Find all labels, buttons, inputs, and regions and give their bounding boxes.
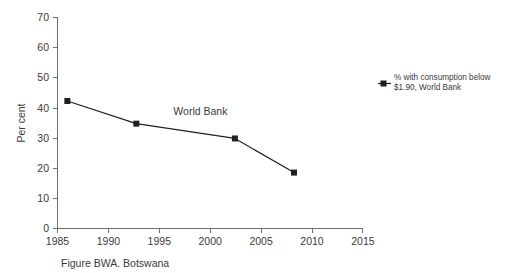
y-tick-label-10: 10 bbox=[37, 192, 49, 204]
series-data-point bbox=[232, 135, 238, 141]
y-axis-ticks bbox=[53, 18, 58, 229]
y-tick-label-50: 50 bbox=[37, 71, 49, 83]
y-tick-label-20: 20 bbox=[37, 162, 49, 174]
x-tick-label-2005: 2005 bbox=[249, 235, 273, 247]
y-tick-label-40: 40 bbox=[37, 102, 49, 114]
y-tick-label-60: 60 bbox=[37, 41, 49, 53]
x-tick-label-1985: 1985 bbox=[46, 235, 70, 247]
x-tick-label-2015: 2015 bbox=[351, 235, 375, 247]
x-axis-tick-labels: 1985 1990 1995 2000 2005 2010 2015 bbox=[46, 235, 375, 247]
legend-square-marker-icon bbox=[381, 81, 387, 87]
x-tick-label-1990: 1990 bbox=[97, 235, 121, 247]
x-tick-label-2000: 2000 bbox=[199, 235, 223, 247]
x-axis-ticks bbox=[58, 229, 363, 234]
figure-container: 70 60 50 40 30 20 10 0 Per cent 1985 199… bbox=[0, 0, 523, 273]
series-data-point bbox=[291, 170, 297, 176]
series-inline-label: World Bank bbox=[173, 105, 228, 117]
x-tick-label-2010: 2010 bbox=[300, 235, 324, 247]
legend-entry-line1: % with consumption below bbox=[394, 73, 491, 82]
series-data-point bbox=[64, 98, 70, 104]
y-axis-title: Per cent bbox=[15, 103, 27, 142]
y-tick-label-0: 0 bbox=[43, 222, 49, 234]
y-tick-label-30: 30 bbox=[37, 132, 49, 144]
figure-caption: Figure BWA. Botswana bbox=[61, 257, 169, 269]
y-tick-label-70: 70 bbox=[37, 11, 49, 23]
x-tick-label-1995: 1995 bbox=[148, 235, 172, 247]
series-data-point bbox=[133, 121, 139, 127]
y-axis-tick-labels: 70 60 50 40 30 20 10 0 bbox=[37, 11, 49, 234]
legend-entry-line2: $1.90, World Bank bbox=[394, 83, 462, 92]
chart-legend: % with consumption below $1.90, World Ba… bbox=[378, 73, 491, 92]
chart-canvas: 70 60 50 40 30 20 10 0 Per cent 1985 199… bbox=[0, 0, 523, 273]
